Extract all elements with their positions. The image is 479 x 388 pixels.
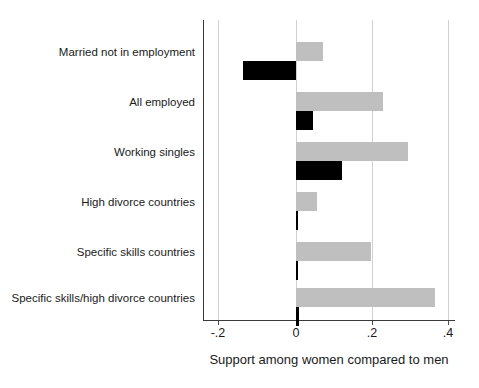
category-label-married-not-in-employment: Married not in employment xyxy=(59,46,195,59)
bar-black-series-working-singles xyxy=(296,161,342,180)
tick-0-4 xyxy=(448,321,449,325)
gridline-0-2 xyxy=(372,20,373,320)
bar-black-series-specific-skills-countries xyxy=(296,261,298,280)
y-axis-line xyxy=(203,20,204,321)
category-label-column: Married not in employment All employed W… xyxy=(0,20,199,320)
category-label-specific-skills-high-divorce: Specific skills/high divorce countries xyxy=(12,292,195,305)
category-label-specific-skills-countries: Specific skills countries xyxy=(77,246,195,259)
bar-gray-series-married-not-in-employment xyxy=(296,42,323,61)
bar-gray-series-specific-skills-high-divorce-countries xyxy=(296,288,435,307)
tick-0-2 xyxy=(372,321,373,325)
category-label-high-divorce-countries: High divorce countries xyxy=(81,196,195,209)
bar-gray-series-working-singles xyxy=(296,142,408,161)
x-axis-title: Support among women compared to men xyxy=(203,352,455,367)
bar-black-series-married-not-in-employment xyxy=(243,61,296,80)
tick-label-0-2: .2 xyxy=(367,326,377,340)
bar-gray-series-specific-skills-countries xyxy=(296,242,371,261)
category-label-all-employed: All employed xyxy=(129,96,195,109)
bar-gray-series-high-divorce-countries xyxy=(296,192,317,211)
x-axis-line xyxy=(203,320,455,321)
bar-chart: Married not in employment All employed W… xyxy=(0,0,479,388)
tick-label-0-4: .4 xyxy=(443,326,453,340)
gridline-0-4 xyxy=(448,20,449,320)
bar-gray-series-all-employed xyxy=(296,92,383,111)
bar-black-series-specific-skills-high-divorce-countries xyxy=(296,307,299,326)
bar-black-series-all-employed xyxy=(296,111,313,130)
plot-area: -.2 0 .2 .4 xyxy=(203,20,455,320)
gridline-neg-0-2 xyxy=(218,20,219,320)
tick-neg-0-2 xyxy=(218,321,219,325)
tick-label-0: 0 xyxy=(293,326,300,340)
bar-black-series-high-divorce-countries xyxy=(296,211,298,230)
category-label-working-singles: Working singles xyxy=(114,146,195,159)
tick-label-neg-0-2: -.2 xyxy=(211,326,226,340)
